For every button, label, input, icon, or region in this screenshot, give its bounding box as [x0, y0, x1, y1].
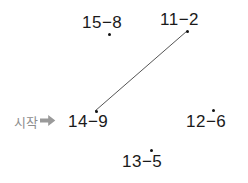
node-dot-12-6	[212, 109, 215, 112]
diagram-canvas: 15−811−214−912−613−5 시작	[0, 0, 248, 183]
node-label: 15−8	[82, 14, 122, 31]
node-label: 13−5	[122, 153, 162, 170]
node-label: 14−9	[68, 113, 108, 130]
node-dot-15-8	[108, 33, 111, 36]
node-label: 11−2	[160, 11, 199, 28]
node-dot-11-2	[186, 30, 189, 33]
node-11-2[interactable]: 11−2	[160, 11, 199, 28]
node-dot-14-9	[95, 110, 98, 113]
node-dot-13-5	[150, 149, 153, 152]
node-13-5[interactable]: 13−5	[122, 153, 162, 170]
node-14-9[interactable]: 14−9	[68, 113, 108, 130]
node-label: 12−6	[186, 113, 226, 130]
start-marker: 시작	[14, 114, 56, 130]
right-arrow-icon	[40, 114, 56, 130]
node-15-8[interactable]: 15−8	[82, 14, 122, 31]
node-12-6[interactable]: 12−6	[186, 113, 226, 130]
start-label: 시작	[14, 116, 38, 129]
connection-14-9__11-2[interactable]	[95, 31, 187, 111]
